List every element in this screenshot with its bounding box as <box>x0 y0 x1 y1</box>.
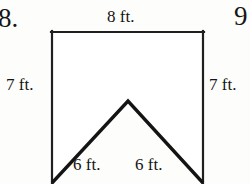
dimension-label-bottom-right: 6 ft. <box>135 156 162 173</box>
problem-number-current: 8. <box>0 5 18 32</box>
dimension-label-left: 7 ft. <box>6 76 33 93</box>
dimension-label-bottom-left: 6 ft. <box>73 156 100 173</box>
dimension-label-top: 8 ft. <box>107 8 134 25</box>
worksheet-figure-page: 8. 9 8 ft. 7 ft. 7 ft. 6 ft. 6 ft. <box>0 0 250 184</box>
dimension-label-right: 7 ft. <box>209 76 236 93</box>
problem-number-next: 9 <box>234 3 248 30</box>
